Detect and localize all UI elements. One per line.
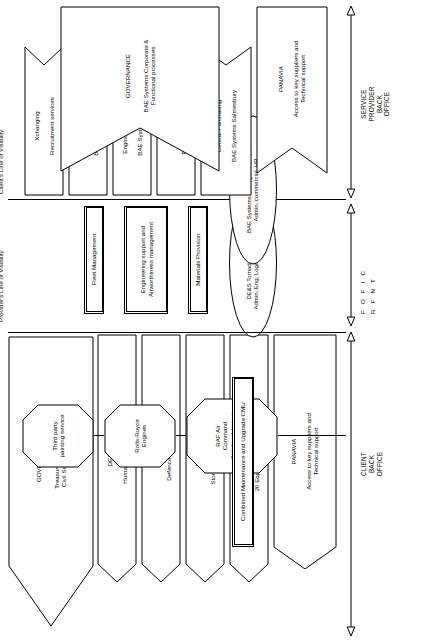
client-line-of-visibility-line <box>8 199 346 200</box>
service-blueprint-diagram: GOVERNANCE Treasury decisions & Civil Se… <box>0 0 444 644</box>
rolls-royce-engines-label: Rolls-Royce Engines <box>133 404 148 468</box>
provider-governance-body: BAE Systems Corporate & Functional proce… <box>142 6 157 146</box>
panavia-role: Access to key suppliers and Technical su… <box>305 334 320 569</box>
panavia-role: Access to key suppliers and Technical su… <box>292 6 307 152</box>
third-party-painting: Third party painting service <box>22 404 94 468</box>
support-role: BAE Systems Salmesbury <box>230 56 237 196</box>
front-office-axis <box>346 204 356 326</box>
provider-governance-label: GOVERNANCE BAE Systems Corporate & Funct… <box>60 6 220 146</box>
client-line-of-visibility: Client's Line of Visibility <box>0 54 7 344</box>
client-line-of-visibility-label: Client's Line of Visibility <box>0 0 5 344</box>
service-provider-back-office-axis <box>346 6 356 198</box>
provider-governance-heading: GOVERNANCE <box>124 6 131 146</box>
connector-painting-rr <box>94 435 104 436</box>
engineering-support-label: Engineering support and Airworthiness ma… <box>139 208 154 310</box>
connector-raf-front-office <box>278 435 346 436</box>
combined-maintenance-upgrade-inner: Combined Maintenance and Upgrade CMU <box>234 378 252 544</box>
combined-maintenance-upgrade-box: Combined Maintenance and Upgrade CMU <box>232 377 254 547</box>
fleet-management-label: Fleet Management <box>91 208 98 310</box>
zone-front-office-line2: R F N T <box>369 204 377 314</box>
combined-maintenance-upgrade-label: Combined Maintenance and Upgrade CMU <box>240 379 247 543</box>
third-party-painting-label: Third party painting service <box>51 404 66 468</box>
front-office-activity-engineering-support: Engineering support and Airworthiness ma… <box>124 206 168 314</box>
connector-rr-raf <box>176 435 186 436</box>
materials-provision-label: Materials Provision <box>195 208 202 310</box>
front-office-activity-fleet-management: Fleet Management <box>84 206 104 314</box>
fleet-management-inner: Fleet Management <box>86 207 102 311</box>
zone-front-office-line1: F O F I C <box>359 204 367 314</box>
provider-line-of-visibility-line <box>8 332 346 333</box>
support-org: Xchanging <box>33 56 40 196</box>
provider-support-xchanging: Xchanging Recruitment services <box>24 56 64 196</box>
zone-client-back-office: CLIENT BACK OFFICE <box>360 404 383 524</box>
client-back-office-axis <box>346 332 356 636</box>
support-role: Recruitment services <box>48 56 55 196</box>
panavia-org: PANAVIA <box>277 6 284 152</box>
engineering-support-inner: Engineering support and Airworthiness ma… <box>126 207 166 311</box>
materials-provision-inner: Materials Provision <box>190 207 206 311</box>
rolls-royce-engines: Rolls-Royce Engines <box>104 404 176 468</box>
provider-panavia: PANAVIA Access to key suppliers and Tech… <box>256 6 328 152</box>
panavia-org: PANAVIA <box>290 334 297 569</box>
zone-service-provider-back-office: SERVICE PROVIDER BACK OFFICE <box>360 34 391 174</box>
front-office-activity-materials-provision: Materials Provision <box>188 206 208 314</box>
client-panavia: PANAVIA Access to key suppliers and Tech… <box>273 334 337 569</box>
